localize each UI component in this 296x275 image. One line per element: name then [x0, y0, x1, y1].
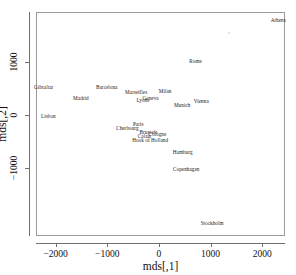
x-axis-title: mds[,1]: [36, 260, 285, 272]
city-label: Milan: [159, 90, 172, 95]
city-label: Athens: [271, 19, 286, 24]
city-label: Hook of Holland: [132, 139, 168, 144]
y-tick-mark: [25, 115, 29, 116]
x-tick-label: −2000: [43, 249, 67, 259]
x-tick-label: 0: [157, 249, 162, 259]
y-tick-mark: [25, 168, 29, 169]
x-tick-label: −1000: [95, 249, 119, 259]
city-label: Cherbourg: [116, 127, 139, 132]
city-label: Vienna: [194, 99, 209, 104]
x-axis-line: [36, 243, 285, 244]
city-label: Barcelona: [96, 86, 117, 91]
x-tick-mark: [107, 243, 108, 247]
y-tick-mark: [25, 62, 29, 63]
city-label: Munich: [174, 104, 190, 109]
city-label: Copenhagen: [173, 168, 199, 173]
y-tick-label: −1000: [9, 155, 19, 179]
city-label: Gibraltar: [34, 85, 53, 90]
x-tick-mark: [211, 243, 212, 247]
city-label: Lisbon: [41, 115, 56, 120]
mds-scatter-plot: AthensRomeGibraltarBarcelonaMadridMarsei…: [0, 0, 296, 275]
y-axis-title: mds[,2]: [0, 106, 8, 141]
x-tick-mark: [262, 243, 263, 247]
y-tick-label: 0: [9, 113, 19, 118]
city-label: Hamburg: [173, 151, 193, 156]
stray-mark: [228, 32, 230, 34]
x-tick-label: 1000: [201, 249, 220, 259]
x-tick-mark: [159, 243, 160, 247]
city-label: Stockholm: [201, 222, 224, 227]
x-tick-mark: [56, 243, 57, 247]
plot-panel: AthensRomeGibraltarBarcelonaMadridMarsei…: [36, 12, 285, 236]
y-tick-label: 1000: [9, 53, 19, 72]
city-label: Geneva: [143, 97, 159, 102]
y-axis-line: [29, 12, 30, 236]
x-tick-label: 2000: [253, 249, 272, 259]
city-label: Rome: [189, 59, 202, 64]
city-label: Madrid: [73, 96, 89, 101]
